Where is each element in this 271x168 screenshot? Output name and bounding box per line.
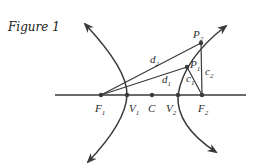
- point-F2: [200, 93, 204, 97]
- segment-d2: [101, 43, 201, 95]
- label-V2: V2: [166, 102, 177, 117]
- label-F2: F2: [197, 102, 209, 117]
- point-F1: [99, 93, 103, 97]
- point-V1: [125, 93, 129, 97]
- label-c1: c1: [186, 72, 194, 87]
- label-c2: c2: [205, 65, 214, 80]
- hyperbola-figure: Figure 1 F1 V1 C V2 F2 P2: [0, 0, 271, 168]
- segment-c2: [201, 43, 202, 95]
- label-C: C: [148, 102, 156, 114]
- point-V2: [176, 93, 180, 97]
- label-P1: P1: [189, 58, 200, 73]
- label-F1: F1: [94, 102, 105, 117]
- figure-title: Figure 1: [8, 20, 60, 34]
- label-V1: V1: [129, 102, 139, 117]
- point-C: [150, 93, 154, 97]
- point-P1: [185, 65, 189, 69]
- segment-d1: [101, 67, 187, 95]
- label-d2: d2: [150, 53, 160, 68]
- label-d1: d1: [162, 73, 171, 88]
- label-P2: P2: [192, 28, 204, 43]
